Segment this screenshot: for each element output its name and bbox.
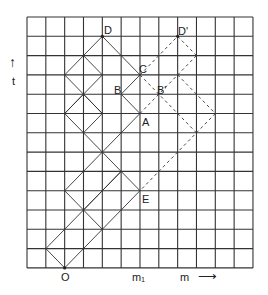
point-O-label: O [61,272,70,283]
worldline-solid [121,75,140,94]
m1-label: m₁ [132,272,145,283]
m-axis-label: m [180,272,189,283]
point-C-label: C [139,64,147,75]
point-D-label: D [104,25,112,36]
point-Bprime-label: B' [157,85,166,96]
spacetime-diagram [0,0,268,295]
m-axis-arrow: ⟶ [198,270,217,283]
worldline-dashed [178,36,197,55]
worldline-dashed [140,56,196,114]
worldline-solid [121,94,140,113]
t-axis-arrow: ↑ [9,55,16,69]
point-A-label: A [142,117,149,128]
point-Dprime-label: D' [178,26,188,37]
worldline-solid [83,56,102,75]
t-axis-label: t [12,76,15,87]
worldline-solid [83,114,102,133]
point-B-label: B [114,85,121,96]
worldline-solid [46,249,65,268]
point-E-label: E [142,194,149,205]
point-O-dot [63,266,66,269]
